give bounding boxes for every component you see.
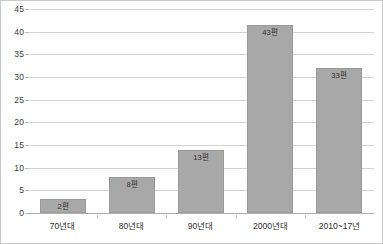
bar[interactable]: 8편 <box>109 177 155 213</box>
bar-chart: 051015202530354045 2편8편13편43편33편 70년대80년… <box>0 0 383 244</box>
bar-value-label: 33편 <box>317 72 361 80</box>
y-axis-tick-mark <box>25 77 28 78</box>
x-axis-category-label: 70년대 <box>28 222 97 231</box>
y-axis-tick-label: 0 <box>2 209 24 218</box>
x-axis-tick-mark <box>97 215 98 219</box>
bar[interactable]: 13편 <box>178 150 224 213</box>
y-axis: 051015202530354045 <box>0 9 24 213</box>
y-axis-tick-label: 45 <box>2 5 24 14</box>
bar-value-label: 43편 <box>248 29 292 37</box>
y-axis-tick-mark <box>25 100 28 101</box>
y-axis-tick-label: 20 <box>2 118 24 127</box>
bar-value-label: 8편 <box>110 181 154 189</box>
y-axis-tick-mark <box>25 213 28 214</box>
y-axis-tick-label: 35 <box>2 50 24 59</box>
bar-value-label: 2편 <box>41 203 85 211</box>
y-axis-tick-mark <box>25 190 28 191</box>
x-axis-tick-mark <box>166 215 167 219</box>
y-axis-tick-label: 25 <box>2 96 24 105</box>
x-axis-category-label: 80년대 <box>97 222 166 231</box>
x-axis-tick-mark <box>236 215 237 219</box>
gridline <box>28 213 374 214</box>
x-axis-tick-mark <box>305 215 306 219</box>
gridline <box>28 54 374 55</box>
bar[interactable]: 2편 <box>40 199 86 213</box>
x-axis-category-label: 2000년대 <box>236 222 305 231</box>
y-axis-tick-label: 10 <box>2 164 24 173</box>
y-axis-tick-mark <box>25 9 28 10</box>
bar[interactable]: 43편 <box>247 25 293 213</box>
y-axis-tick-label: 15 <box>2 141 24 150</box>
gridline <box>28 9 374 10</box>
plot-area: 2편8편13편43편33편 <box>28 9 374 213</box>
y-axis-tick-mark <box>25 32 28 33</box>
x-axis-category-label: 90년대 <box>166 222 235 231</box>
x-axis: 70년대80년대90년대2000년대2010~17년 <box>28 215 374 235</box>
gridline <box>28 32 374 33</box>
y-axis-tick-label: 40 <box>2 28 24 37</box>
y-axis-tick-mark <box>25 168 28 169</box>
y-axis-tick-label: 5 <box>2 186 24 195</box>
y-axis-tick-mark <box>25 54 28 55</box>
bar[interactable]: 33편 <box>316 68 362 213</box>
bar-value-label: 13편 <box>179 154 223 162</box>
x-axis-category-label: 2010~17년 <box>305 222 374 231</box>
y-axis-tick-mark <box>25 145 28 146</box>
y-axis-tick-label: 30 <box>2 73 24 82</box>
y-axis-tick-mark <box>25 122 28 123</box>
